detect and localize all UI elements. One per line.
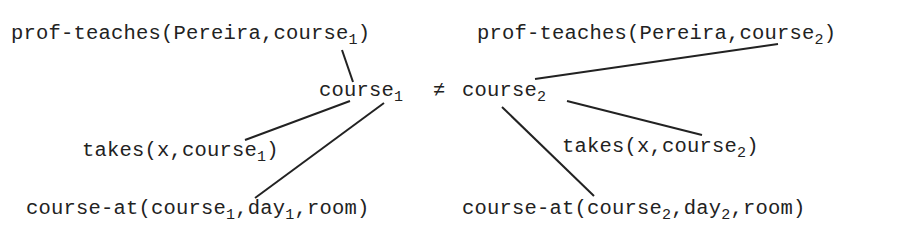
node-course-at-2: course-at(course2,day2,room) <box>462 197 805 221</box>
node-text: ,room) <box>294 197 369 220</box>
node-text: takes(x,course <box>562 135 737 158</box>
node-text: ) <box>746 135 759 158</box>
subscript: 2 <box>815 32 824 49</box>
node-prof-teaches-2: prof-teaches(Pereira,course2) <box>477 22 836 46</box>
edge-course2-prof-teaches2 <box>535 44 778 79</box>
node-text: ) <box>266 139 279 162</box>
node-text: prof-teaches(Pereira,course <box>477 22 815 45</box>
node-text: ,day <box>235 197 285 220</box>
node-text: course-at(course <box>26 197 226 220</box>
node-course-2: course2 <box>462 79 546 103</box>
node-text: course-at(course <box>462 197 662 220</box>
not-equal-symbol: ≠ <box>433 79 446 103</box>
node-text: ,room) <box>730 197 805 220</box>
node-course-1: course1 <box>319 79 403 103</box>
edge-prof-teaches1-course1 <box>342 50 353 82</box>
subscript: 1 <box>349 32 358 49</box>
subscript: 2 <box>737 145 746 162</box>
node-prof-teaches-1: prof-teaches(Pereira,course1) <box>11 22 370 46</box>
node-course-at-1: course-at(course1,day1,room) <box>26 197 369 221</box>
subscript: 1 <box>226 207 235 224</box>
node-text: course <box>319 79 394 102</box>
edge-course1-takes1 <box>245 101 350 140</box>
node-text: ) <box>358 22 371 45</box>
node-text: takes(x,course <box>82 139 257 162</box>
subscript: 1 <box>394 89 403 106</box>
subscript: 1 <box>257 149 266 166</box>
node-text: ) <box>824 22 837 45</box>
subscript: 2 <box>537 89 546 106</box>
node-takes-1: takes(x,course1) <box>82 139 279 163</box>
node-text: prof-teaches(Pereira,course <box>11 22 349 45</box>
node-text: course <box>462 79 537 102</box>
subscript: 2 <box>662 207 671 224</box>
node-takes-2: takes(x,course2) <box>562 135 759 159</box>
node-text: ,day <box>671 197 721 220</box>
edge-course2-takes2 <box>567 101 702 135</box>
